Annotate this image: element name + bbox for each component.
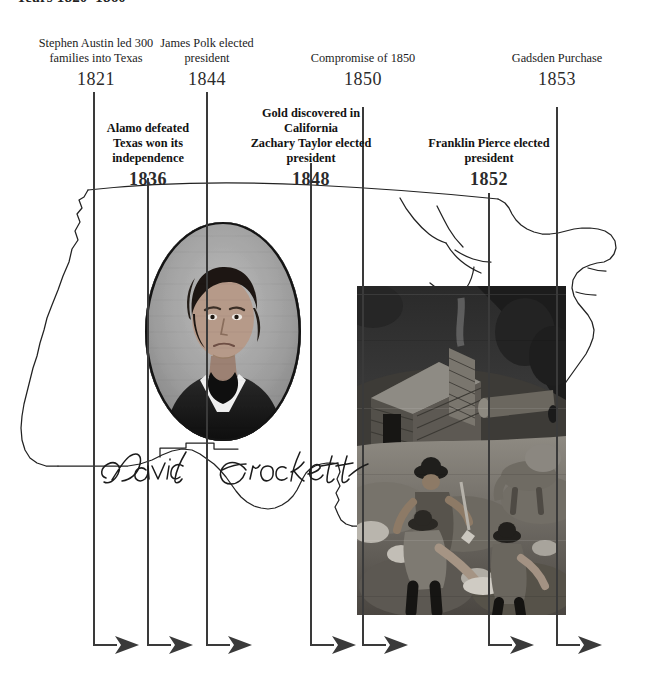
event-text-1844-line2: president [142, 51, 272, 66]
event-label-1850: Compromise of 1850 1850 [272, 51, 454, 91]
event-text-1853-line1: Gadsden Purchase [462, 51, 652, 66]
event-text-1836-line2: Texas won its [76, 136, 220, 151]
event-year-1848: 1848 [216, 169, 406, 191]
event-label-1848: Gold discovered in California Zachary Ta… [216, 106, 406, 191]
signature-david-crockett [0, 0, 661, 673]
event-text-1848-line1: Gold discovered in [216, 106, 406, 121]
event-text-1844-line1: James Polk elected [142, 36, 272, 51]
event-label-1852: Franklin Pierce elected president 1852 [404, 136, 574, 191]
event-text-1848-line3: Zachary Taylor elected [216, 136, 406, 151]
event-text-1848-line2: California [216, 121, 406, 136]
timeline-infographic: Years 1820–1860 [0, 0, 661, 673]
event-year-1836: 1836 [76, 169, 220, 191]
event-label-1844: James Polk elected president 1844 [142, 36, 272, 91]
event-year-1850: 1850 [272, 69, 454, 91]
event-label-1853: Gadsden Purchase 1853 [462, 51, 652, 91]
event-text-1850-line1: Compromise of 1850 [272, 51, 454, 66]
event-text-1852-line2: president [404, 151, 574, 166]
event-text-1836-line1: Alamo defeated [76, 121, 220, 136]
event-label-1836: Alamo defeated Texas won its independenc… [76, 121, 220, 191]
event-text-1848-line4: president [216, 151, 406, 166]
event-text-1852-line1: Franklin Pierce elected [404, 136, 574, 151]
event-year-1844: 1844 [142, 69, 272, 91]
event-text-1836-line3: independence [76, 151, 220, 166]
event-year-1853: 1853 [462, 69, 652, 91]
event-year-1852: 1852 [404, 169, 574, 191]
